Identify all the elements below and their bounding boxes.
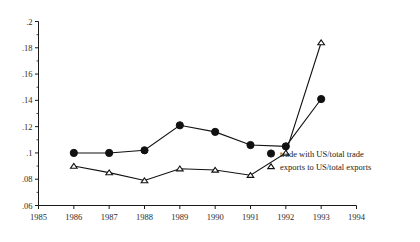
legend-item: exports to US/total exports (268, 162, 372, 172)
data-point-triangle (177, 166, 184, 171)
x-tick-label: 1986 (65, 212, 82, 222)
data-point-triangle (212, 167, 219, 172)
series-line (74, 43, 321, 181)
data-point-circle (70, 149, 77, 156)
data-point-circle (212, 128, 219, 135)
y-axis-tick-labels: .06.08.1.12.14.16.18.2 (22, 17, 33, 211)
y-axis-ticks (35, 22, 39, 206)
line-chart: .06.08.1.12.14.16.18.2 19851986198719881… (0, 0, 420, 242)
y-tick-label: .18 (22, 43, 33, 53)
y-tick-label: .06 (22, 201, 33, 211)
x-tick-label: 1993 (313, 212, 330, 222)
y-tick-label: .08 (22, 174, 33, 184)
x-tick-label: 1992 (277, 212, 294, 222)
y-tick-label: .2 (26, 17, 32, 27)
x-axis-tick-labels: 1985198619871988198919901991199219931994 (30, 212, 366, 222)
data-point-triangle (106, 170, 113, 175)
data-point-circle (247, 141, 254, 148)
data-point-circle (176, 122, 183, 129)
y-axis: .06.08.1.12.14.16.18.2 (22, 17, 39, 211)
legend-item-label: trade with US/total trade (280, 149, 364, 159)
x-tick-label: 1988 (136, 212, 153, 222)
y-tick-label: .1 (26, 148, 32, 158)
x-tick-label: 1991 (242, 212, 259, 222)
series-1 (70, 95, 325, 156)
x-tick-label: 1985 (30, 212, 47, 222)
legend-item-label: exports to US/total exports (280, 162, 371, 172)
data-point-triangle (268, 164, 275, 169)
chart-legend: trade with US/total tradeexports to US/t… (267, 149, 371, 172)
legend-item: trade with US/total trade (267, 149, 364, 159)
y-tick-label: .16 (22, 69, 33, 79)
x-axis: 1985198619871988198919901991199219931994 (30, 206, 366, 222)
y-tick-label: .12 (22, 122, 33, 132)
data-point-circle (267, 150, 274, 157)
x-tick-label: 1994 (348, 212, 366, 222)
data-point-triangle (141, 178, 148, 183)
data-point-triangle (71, 163, 78, 168)
chart-figure: .06.08.1.12.14.16.18.2 19851986198719881… (0, 0, 420, 242)
x-tick-label: 1990 (207, 212, 224, 222)
x-tick-label: 1989 (171, 212, 188, 222)
data-point-circle (141, 147, 148, 154)
y-tick-label: .14 (22, 95, 33, 105)
x-axis-ticks (39, 206, 357, 210)
data-point-triangle (318, 40, 325, 45)
x-tick-label: 1987 (101, 212, 118, 222)
data-point-circle (106, 149, 113, 156)
data-point-circle (318, 95, 325, 102)
